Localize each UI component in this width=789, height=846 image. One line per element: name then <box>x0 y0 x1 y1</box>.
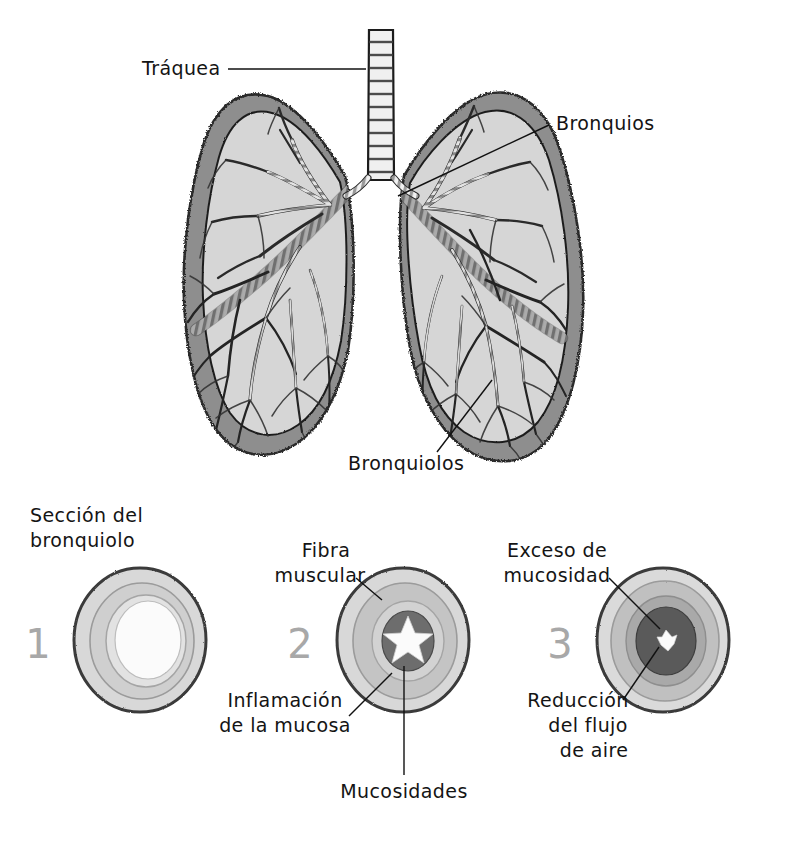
trachea-tube <box>368 30 394 180</box>
label-traquea: Tráquea <box>141 57 221 79</box>
lungs-group: Tráquea Bronquios Bronquiolos <box>141 30 655 474</box>
label-bronquios: Bronquios <box>556 112 655 134</box>
cross-sections-group: Sección del bronquiolo 1 2 3 <box>25 504 729 802</box>
label-fibra-muscular-line2: muscular <box>275 564 366 586</box>
right-lung <box>398 93 583 462</box>
section-heading-line2: bronquiolo <box>30 529 135 551</box>
label-reduccion-line2: del flujo <box>548 714 628 736</box>
section-heading-line1: Sección del <box>30 504 143 526</box>
section1-lumen <box>115 601 181 679</box>
label-reduccion-line3: de aire <box>560 739 629 761</box>
label-exceso-line2: mucosidad <box>503 564 610 586</box>
bronchiole-section-1: 1 <box>25 568 206 712</box>
label-fibra-muscular-line1: Fibra <box>302 539 350 561</box>
label-inflamacion-line2: de la mucosa <box>219 714 351 736</box>
section2-number: 2 <box>287 621 312 667</box>
label-mucosidades: Mucosidades <box>340 780 467 802</box>
section3-number: 3 <box>547 621 572 667</box>
label-exceso-line1: Exceso de <box>507 539 607 561</box>
label-bronquiolos: Bronquiolos <box>348 452 464 474</box>
label-reduccion-line1: Reducción <box>527 689 629 711</box>
left-lung <box>184 94 354 460</box>
section1-number: 1 <box>25 621 50 667</box>
lung-illustration-figure: Tráquea Bronquios Bronquiolos Sección de… <box>0 0 789 846</box>
label-inflamacion-line1: Inflamación <box>227 689 342 711</box>
